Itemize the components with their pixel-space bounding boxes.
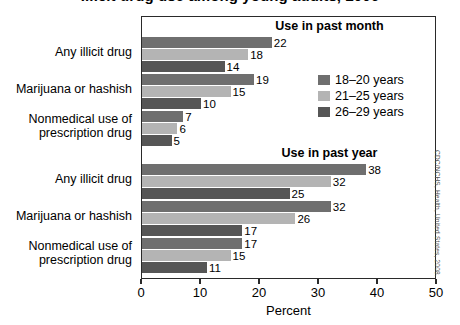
legend: 18–20 years 21–25 years 26–29 years	[318, 72, 404, 120]
bar-value-label: 17	[244, 239, 257, 250]
source-credit: CDC/NCHS, Health, United States, 2008.	[434, 150, 441, 277]
x-axis-tick-label: 40	[370, 285, 384, 300]
bar	[142, 201, 331, 212]
legend-item: 26–29 years	[318, 104, 404, 119]
x-axis-tick	[317, 279, 318, 284]
category-label-line: Nonmedical use of	[0, 239, 132, 253]
legend-swatch-icon	[318, 75, 330, 85]
bar-value-label: 38	[368, 165, 381, 176]
bar-value-label: 19	[256, 75, 269, 86]
bar	[142, 164, 366, 175]
category-label-line: Any illicit drug	[0, 45, 132, 59]
x-axis-tick-label: 10	[193, 285, 207, 300]
bar	[142, 111, 183, 122]
bar	[142, 123, 177, 134]
panel-header: Use in past year	[222, 146, 437, 160]
bar	[142, 176, 331, 187]
bar	[142, 61, 225, 72]
x-axis-tick-label: 20	[252, 285, 266, 300]
bar-value-label: 32	[333, 202, 346, 213]
bar	[142, 188, 290, 199]
x-axis-tick	[199, 279, 200, 284]
bar	[142, 135, 172, 146]
bar	[142, 74, 254, 85]
category-label-line: Nonmedical use of	[0, 112, 132, 126]
bar	[142, 98, 201, 109]
legend-label: 18–20 years	[335, 73, 404, 87]
category-label-line: Marijuana or hashish	[0, 209, 132, 223]
bar-value-label: 32	[333, 177, 346, 188]
x-axis-tick	[140, 279, 141, 284]
bar-value-label: 26	[297, 214, 310, 225]
x-axis-tick-label: 0	[137, 285, 144, 300]
bar	[142, 225, 242, 236]
category-label: Nonmedical use ofprescription drug	[0, 112, 136, 140]
x-axis-tick	[258, 279, 259, 284]
bar	[142, 213, 295, 224]
category-label: Marijuana or hashish	[0, 209, 136, 223]
x-axis-tick-label: 50	[429, 285, 443, 300]
category-label: Nonmedical use ofprescription drug	[0, 239, 136, 267]
plot-area: Use in past month221814191510765Use in p…	[141, 16, 436, 279]
x-axis-tick	[376, 279, 377, 284]
legend-label: 21–25 years	[335, 89, 404, 103]
bar	[142, 37, 272, 48]
category-label-line: prescription drug	[0, 126, 132, 140]
bar-value-label: 10	[203, 99, 216, 110]
category-label-line: Any illicit drug	[0, 172, 132, 186]
legend-swatch-icon	[318, 107, 330, 117]
bar	[142, 86, 231, 97]
bar	[142, 238, 242, 249]
x-axis-title: Percent	[141, 303, 436, 318]
category-label-line: prescription drug	[0, 253, 132, 267]
bar	[142, 250, 231, 261]
category-label-line: Marijuana or hashish	[0, 82, 132, 96]
bar-value-label: 5	[174, 136, 180, 147]
bar-value-label: 25	[292, 189, 305, 200]
bar-value-label: 15	[233, 251, 246, 262]
bar-value-label: 18	[250, 50, 263, 61]
legend-label: 26–29 years	[335, 105, 404, 119]
bar-value-label: 11	[209, 263, 221, 274]
x-axis-tick-label: 30	[311, 285, 325, 300]
bar-value-label: 15	[233, 87, 246, 98]
bar-value-label: 6	[179, 124, 185, 135]
x-axis-tick	[435, 279, 436, 284]
category-label: Marijuana or hashish	[0, 82, 136, 96]
bar-value-label: 7	[185, 112, 191, 123]
legend-item: 18–20 years	[318, 72, 404, 87]
legend-item: 21–25 years	[318, 88, 404, 103]
legend-swatch-icon	[318, 91, 330, 101]
category-label: Any illicit drug	[0, 172, 136, 186]
panel-header: Use in past month	[222, 19, 437, 33]
bar-value-label: 17	[244, 226, 257, 237]
bar	[142, 49, 248, 60]
bar	[142, 262, 207, 273]
category-label: Any illicit drug	[0, 45, 136, 59]
chart-figure: Illicit drug use among young adults, 200…	[0, 0, 460, 325]
bar-value-label: 22	[274, 38, 287, 49]
figure-title: Illicit drug use among young adults, 200…	[0, 0, 460, 5]
bar-value-label: 14	[227, 62, 240, 73]
